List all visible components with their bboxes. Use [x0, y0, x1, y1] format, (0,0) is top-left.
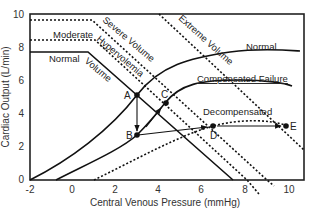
decompensated-curve	[94, 121, 288, 180]
label-moderate: Moderate	[53, 29, 93, 40]
y-axis: 0 2 4 6 8 10 Cardiac Output (L/min)	[0, 9, 24, 185]
x-tick-0: 0	[69, 184, 75, 195]
point-label-a: A	[124, 90, 131, 101]
point-label-e: E	[290, 121, 297, 132]
y-tick-6: 6	[18, 75, 24, 86]
x-tick-8: 8	[242, 184, 248, 195]
y-axis-title: Cardiac Output (L/min)	[0, 46, 11, 147]
y-tick-0: 0	[18, 174, 24, 185]
x-tick-6: 6	[198, 184, 204, 195]
label-normal-volume-b: Volume	[83, 55, 114, 84]
label-decompensated: Decompensated	[203, 106, 272, 117]
x-axis-title: Central Venous Pressure (mmHg)	[90, 197, 240, 208]
y-tick-10: 10	[13, 9, 25, 20]
point-label-c: C	[161, 89, 168, 100]
cardiac-output-venous-return-chart: 0 2 4 6 8 10 Cardiac Output (L/min) -2 0…	[0, 0, 309, 208]
point-label-d: D	[210, 130, 217, 141]
x-axis: -2 0 2 4 6 8 10 Central Venous Pressure …	[26, 184, 295, 208]
point-a	[134, 92, 140, 98]
point-c	[163, 100, 169, 106]
point-b	[134, 132, 140, 138]
x-tick-10: 10	[283, 184, 295, 195]
point-label-b: B	[126, 130, 133, 141]
compensated-failure-curve	[56, 80, 292, 180]
y-tick-8: 8	[18, 42, 24, 53]
severe-volume-curve	[30, 20, 274, 186]
label-compensated-failure: Compensated Failure	[197, 73, 288, 84]
point-d	[210, 123, 216, 129]
label-normal-cardiac-function: Normal	[246, 41, 277, 52]
x-tick-2: 2	[112, 184, 118, 195]
y-tick-2: 2	[18, 141, 24, 152]
label-normal-volume-a: Normal	[49, 53, 80, 64]
x-tick-4: 4	[155, 184, 161, 195]
x-tick-neg2: -2	[26, 184, 35, 195]
point-e	[283, 123, 289, 129]
y-tick-4: 4	[18, 108, 24, 119]
